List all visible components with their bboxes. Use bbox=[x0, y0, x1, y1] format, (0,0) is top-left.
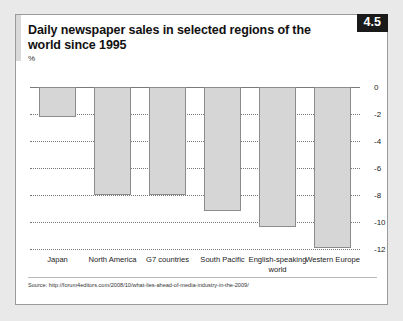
bar-chart-plot-area: 0-2-4-6-8-10-12JapanNorth AmericaG7 coun… bbox=[30, 87, 360, 249]
gridline-0 bbox=[30, 87, 360, 88]
gridline-neg2 bbox=[30, 114, 360, 115]
figure-number-badge: 4.5 bbox=[357, 14, 388, 32]
y-axis-tick-label: -10 bbox=[374, 218, 386, 227]
bar bbox=[314, 87, 350, 248]
x-axis-category-label: Western Europe bbox=[300, 255, 366, 265]
gridline-neg12 bbox=[30, 249, 360, 250]
unit-label: % bbox=[28, 54, 35, 63]
y-axis-tick-label: -2 bbox=[374, 110, 381, 119]
figure-card: 4.5 Daily newspaper sales in selected re… bbox=[15, 14, 388, 305]
y-axis-tick-label: -8 bbox=[374, 191, 381, 200]
y-axis-tick-label: -6 bbox=[374, 164, 381, 173]
bar bbox=[39, 87, 75, 117]
bar bbox=[204, 87, 240, 211]
figure-title: Daily newspaper sales in selected region… bbox=[28, 23, 328, 52]
gridline-neg10 bbox=[30, 222, 360, 223]
y-axis-tick-label: -4 bbox=[374, 137, 381, 146]
y-axis-tick-label: 0 bbox=[374, 83, 378, 92]
y-axis-tick-label: -12 bbox=[374, 245, 386, 254]
gridline-neg8 bbox=[30, 195, 360, 196]
footer-divider bbox=[28, 277, 377, 278]
gridline-neg6 bbox=[30, 168, 360, 169]
bar bbox=[94, 87, 130, 195]
gridline-neg4 bbox=[30, 141, 360, 142]
bar bbox=[259, 87, 295, 227]
bar bbox=[149, 87, 185, 195]
page-background: 4.5 Daily newspaper sales in selected re… bbox=[0, 0, 403, 321]
source-note: Source: http://forum4editors.com/2008/10… bbox=[28, 282, 249, 288]
card-spine-decoration bbox=[16, 15, 21, 61]
